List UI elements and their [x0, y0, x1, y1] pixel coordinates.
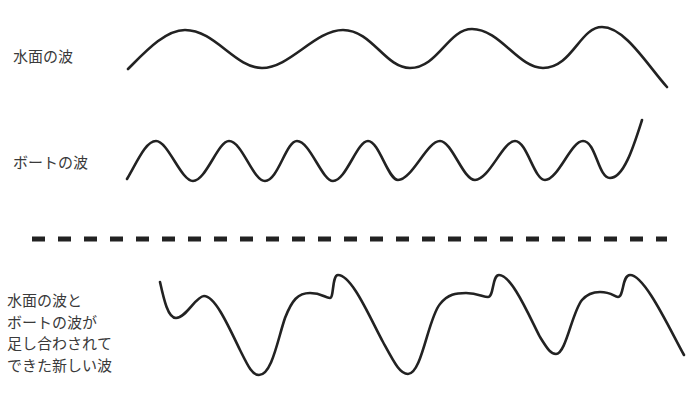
- surface-wave-curve: [128, 27, 667, 87]
- combined-wave-curve: [160, 275, 684, 375]
- wave-diagram: [0, 0, 690, 394]
- boat-wave-curve: [127, 120, 642, 181]
